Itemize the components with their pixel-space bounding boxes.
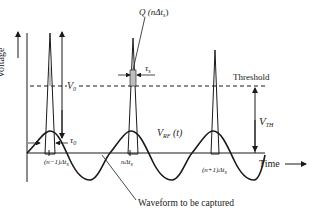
- tick-next-sub: s: [224, 169, 226, 175]
- diagram-canvas: [0, 0, 321, 218]
- tau-s-label: τs: [145, 64, 151, 74]
- tau-0-label: τ0: [70, 136, 76, 146]
- waveform-label: Waveform to be captured: [138, 199, 234, 209]
- tick-cur-text: nΔt: [121, 158, 131, 166]
- v0-sub: 0: [73, 86, 76, 92]
- tau-s-sub: s: [148, 68, 150, 74]
- vth-sub: TH: [266, 122, 274, 128]
- tick-cur-sub: s: [131, 161, 133, 167]
- tick-prev-label: (n−1)Δts: [44, 159, 69, 167]
- tick-next-text: (n+1)Δt: [202, 166, 224, 174]
- vth-label: VTH: [259, 116, 273, 128]
- y-axis-label-text: Voltage: [0, 48, 6, 78]
- waveform-curve: [27, 131, 265, 180]
- spike-2-fill: [130, 70, 136, 86]
- sampling-diagram: Voltage Q (nΔts) τs Threshold V0 VTH VRF…: [0, 0, 321, 218]
- vrf-label: VRF (t): [157, 128, 182, 139]
- spike-3: [211, 50, 219, 154]
- v0-label: V0: [67, 81, 76, 92]
- tick-next-label: (n+1)Δts: [202, 167, 227, 175]
- q-label: Q (nΔts): [139, 8, 168, 18]
- q-pointer: [133, 17, 145, 70]
- vrf-sub: RF: [163, 133, 170, 139]
- spike-1: [45, 33, 55, 154]
- tick-prev-sub: s: [66, 161, 68, 167]
- vth-text: V: [259, 115, 266, 127]
- threshold-text: Threshold: [233, 72, 270, 82]
- x-axis-label-text: Time: [259, 158, 280, 169]
- q-label-close: ): [165, 7, 168, 17]
- threshold-label: Threshold: [233, 73, 270, 82]
- x-axis-label: Time: [259, 159, 280, 169]
- waveform-label-text: Waveform to be captured: [138, 198, 234, 208]
- vrf-arg: (t): [173, 127, 182, 138]
- q-label-text: Q (nΔt: [139, 7, 163, 17]
- tick-prev-text: (n−1)Δt: [44, 158, 66, 166]
- tick-cur-label: nΔts: [121, 159, 133, 167]
- tau-0-sub: 0: [73, 140, 76, 146]
- y-axis-label: Voltage: [0, 48, 6, 78]
